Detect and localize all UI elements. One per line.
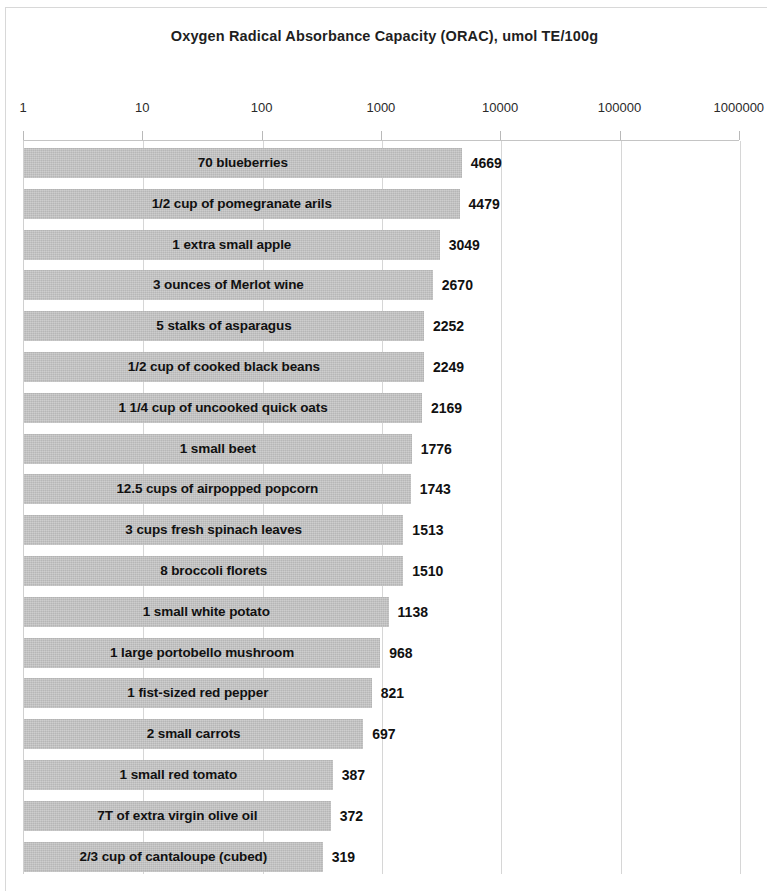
bar-category-label: 8 broccoli florets <box>24 556 403 586</box>
x-tick-label-1000000: 1000000 <box>713 100 764 115</box>
x-tick-label-10000: 10000 <box>482 100 518 115</box>
bar-category-label: 2/3 cup of cantaloupe (cubed) <box>24 842 323 872</box>
chart-title: Oxygen Radical Absorbance Capacity (ORAC… <box>0 28 769 44</box>
bar-value-label: 697 <box>372 719 395 749</box>
bar-value-label: 821 <box>381 678 404 708</box>
x-tick-label-1: 1 <box>19 100 26 115</box>
bar-value-label: 372 <box>340 801 363 831</box>
bar-category-label: 1/2 cup of pomegranate arils <box>24 189 460 219</box>
bar-row[interactable]: 7T of extra virgin olive oil372 <box>24 801 740 831</box>
plot-area: 70 blueberries46691/2 cup of pomegranate… <box>23 140 739 874</box>
bar-value-label: 2252 <box>433 311 464 341</box>
bar-value-label: 4479 <box>469 189 500 219</box>
bar-row[interactable]: 1 small beet1776 <box>24 434 740 464</box>
x-tick-mark-10000 <box>500 131 501 140</box>
bar-category-label: 3 cups fresh spinach leaves <box>24 515 403 545</box>
bar-category-label: 1 small white potato <box>24 597 389 627</box>
bar-category-label: 1 extra small apple <box>24 230 440 260</box>
bar-series: 70 blueberries46691/2 cup of pomegranate… <box>24 141 739 874</box>
bar-row[interactable]: 2 small carrots697 <box>24 719 740 749</box>
bar-category-label: 1 small red tomato <box>24 760 333 790</box>
bar-row[interactable]: 1/2 cup of cooked black beans2249 <box>24 352 740 382</box>
bar-row[interactable]: 12.5 cups of airpopped popcorn1743 <box>24 474 740 504</box>
bar-row[interactable]: 1/2 cup of pomegranate arils4479 <box>24 189 740 219</box>
bar-row[interactable]: 1 small white potato1138 <box>24 597 740 627</box>
bar-category-label: 5 stalks of asparagus <box>24 311 424 341</box>
bar-value-label: 2169 <box>431 393 462 423</box>
bar-value-label: 968 <box>389 638 412 668</box>
x-tick-mark-1000000 <box>739 131 740 140</box>
x-axis-tick-marks <box>0 131 769 140</box>
bar-value-label: 2670 <box>442 270 473 300</box>
x-tick-mark-100000 <box>620 131 621 140</box>
bar-category-label: 2 small carrots <box>24 719 363 749</box>
bar-value-label: 387 <box>342 760 365 790</box>
bar-row[interactable]: 3 cups fresh spinach leaves1513 <box>24 515 740 545</box>
bar-category-label: 1 fist-sized red pepper <box>24 678 372 708</box>
x-tick-label-10: 10 <box>135 100 149 115</box>
bar-value-label: 1513 <box>412 515 443 545</box>
bar-category-label: 1 large portobello mushroom <box>24 638 380 668</box>
bar-value-label: 1776 <box>421 434 452 464</box>
bar-category-label: 1/2 cup of cooked black beans <box>24 352 424 382</box>
bar-value-label: 3049 <box>449 230 480 260</box>
x-tick-label-1000: 1000 <box>366 100 395 115</box>
bar-row[interactable]: 3 ounces of Merlot wine2670 <box>24 270 740 300</box>
bar-category-label: 70 blueberries <box>24 148 462 178</box>
bar-category-label: 1 1/4 cup of uncooked quick oats <box>24 393 422 423</box>
x-tick-mark-1 <box>23 131 24 140</box>
bar-category-label: 3 ounces of Merlot wine <box>24 270 433 300</box>
bar-row[interactable]: 1 1/4 cup of uncooked quick oats2169 <box>24 393 740 423</box>
bar-row[interactable]: 5 stalks of asparagus2252 <box>24 311 740 341</box>
bar-value-label: 1138 <box>398 597 428 627</box>
bar-row[interactable]: 1 extra small apple3049 <box>24 230 740 260</box>
bar-value-label: 1510 <box>412 556 443 586</box>
bar-row[interactable]: 2/3 cup of cantaloupe (cubed)319 <box>24 842 740 872</box>
x-axis-tick-labels: 1101001000100001000001000000 <box>0 100 769 122</box>
bar-value-label: 319 <box>332 842 355 872</box>
bar-value-label: 4669 <box>471 148 502 178</box>
bar-category-label: 12.5 cups of airpopped popcorn <box>24 474 411 504</box>
bar-value-label: 1743 <box>420 474 451 504</box>
bar-row[interactable]: 8 broccoli florets1510 <box>24 556 740 586</box>
bar-row[interactable]: 1 small red tomato387 <box>24 760 740 790</box>
bar-row[interactable]: 70 blueberries4669 <box>24 148 740 178</box>
bar-value-label: 2249 <box>433 352 464 382</box>
bar-row[interactable]: 1 fist-sized red pepper821 <box>24 678 740 708</box>
x-tick-label-100000: 100000 <box>598 100 641 115</box>
bar-category-label: 7T of extra virgin olive oil <box>24 801 331 831</box>
bar-row[interactable]: 1 large portobello mushroom968 <box>24 638 740 668</box>
x-tick-label-100: 100 <box>251 100 273 115</box>
x-tick-mark-100 <box>262 131 263 140</box>
x-tick-mark-10 <box>142 131 143 140</box>
x-tick-mark-1000 <box>381 131 382 140</box>
bar-category-label: 1 small beet <box>24 434 412 464</box>
